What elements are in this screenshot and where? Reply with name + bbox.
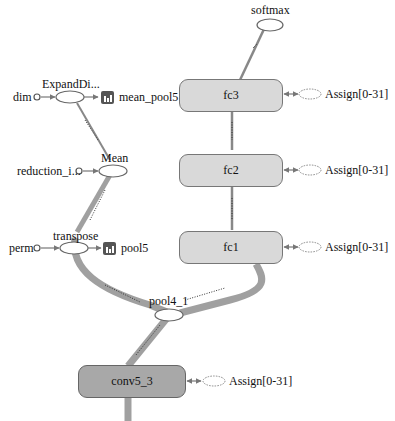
softmax-node[interactable] [257,19,283,31]
dim-label: dim [13,90,32,104]
assign-fc1-label: Assign[0-31] [325,240,388,254]
assign-fc3[interactable] [284,89,321,99]
pool4-1-label: pool4_1 [149,294,188,308]
fc3-label: fc3 [223,88,238,103]
transpose-label: transpose [53,229,98,243]
pool4-1-node[interactable] [155,309,183,321]
assign-fc2-label: Assign[0-31] [325,163,388,177]
fc3-node[interactable]: fc3 [179,79,283,112]
edge-transpose-mean [77,175,110,232]
summary-icon-pool5[interactable] [103,242,116,255]
perm-label: perm [9,241,34,255]
edge-pool4-fc1 [180,264,262,313]
mean-label: Mean [101,151,128,165]
graph-canvas [0,0,395,421]
edge-fc3-softmax [240,27,265,80]
pool5-label: pool5 [121,241,148,255]
edge-conv-pool4 [128,318,167,366]
transpose-node[interactable] [60,242,88,254]
perm-const-node[interactable] [34,245,40,251]
assign-conv5-3-label: Assign[0-31] [229,374,292,388]
dim-const-node[interactable] [34,94,40,100]
fc1-label: fc1 [223,240,238,255]
assign-fc3-label: Assign[0-31] [325,87,388,101]
fc1-node[interactable]: fc1 [179,231,283,264]
assign-conv5-3[interactable] [187,376,225,386]
conv5-3-node[interactable]: conv5_3 [78,365,186,398]
expand-dims-label: ExpandDi... [42,77,100,91]
softmax-label: softmax [251,3,290,17]
assign-fc1[interactable] [284,242,321,252]
expand-dims-node[interactable] [56,91,84,103]
mean-pool5-label: mean_pool5 [119,90,178,104]
fc2-label: fc2 [223,163,238,178]
assign-fc2[interactable] [284,165,321,175]
mean-node[interactable] [99,165,127,177]
summary-icon-mean-pool5[interactable] [101,91,114,104]
conv5-3-label: conv5_3 [111,374,152,389]
fc2-node[interactable]: fc2 [179,154,283,187]
reduction-indices-label: reduction_i... [17,164,81,178]
